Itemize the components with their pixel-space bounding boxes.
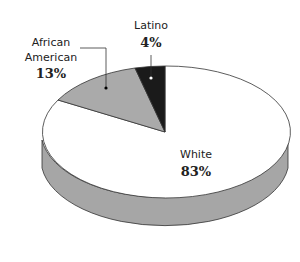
pie-chart: African American 13% Latino 4% White 83% (0, 0, 300, 262)
value-white: 83% (181, 164, 212, 179)
label-latino: Latino (134, 19, 168, 32)
label-african-american-line1: African (32, 36, 70, 49)
value-latino: 4% (140, 35, 162, 50)
value-african-american: 13% (36, 66, 67, 81)
label-african-american-line2: American (25, 51, 77, 64)
label-white: White (180, 148, 212, 161)
